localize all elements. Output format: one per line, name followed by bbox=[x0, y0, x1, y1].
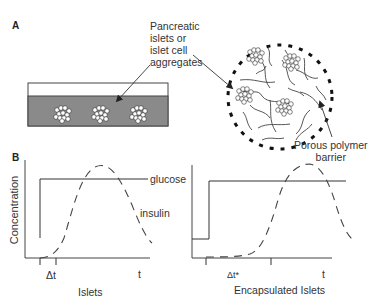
y-axis-label: Concentration bbox=[8, 176, 20, 245]
delta-t-star-label: Δt* bbox=[227, 269, 239, 281]
insulin-label: insulin bbox=[140, 207, 170, 219]
panel-b-letter: B bbox=[12, 152, 19, 163]
culture-dish bbox=[28, 83, 168, 126]
islets-label: Pancreatic islets or islet cell aggregat… bbox=[150, 20, 203, 68]
encapsulation-sphere bbox=[228, 45, 332, 149]
panel-a-letter: A bbox=[12, 20, 19, 31]
barrier-arrow bbox=[320, 102, 332, 137]
glucose-label: glucose bbox=[150, 173, 186, 185]
t-label-left: t bbox=[138, 268, 141, 280]
barrier-label: Porous polymer barrier bbox=[294, 139, 368, 163]
islets-title: Islets bbox=[78, 286, 103, 298]
plot-encapsulated-islets bbox=[192, 164, 356, 265]
plot-islets bbox=[25, 160, 152, 265]
t-label-right: t bbox=[322, 268, 325, 280]
delta-t-label: Δt bbox=[46, 269, 56, 281]
encapsulated-islets-title: Encapsulated Islets bbox=[234, 284, 325, 296]
